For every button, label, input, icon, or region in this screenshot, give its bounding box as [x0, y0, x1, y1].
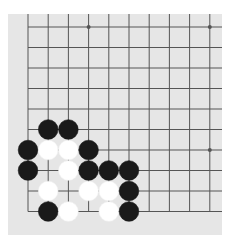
white-stone[interactable] — [59, 161, 79, 181]
black-stone[interactable] — [79, 140, 99, 160]
white-stone[interactable] — [99, 202, 119, 222]
star-point — [208, 148, 212, 152]
go-board[interactable] — [8, 14, 222, 235]
black-stone[interactable] — [59, 120, 79, 140]
white-stone[interactable] — [59, 202, 79, 222]
star-point — [208, 25, 212, 29]
white-stone[interactable] — [38, 140, 58, 160]
black-stone[interactable] — [119, 181, 139, 201]
black-stone[interactable] — [99, 161, 119, 181]
black-stone[interactable] — [119, 161, 139, 181]
white-stone[interactable] — [99, 181, 119, 201]
black-stone[interactable] — [38, 120, 58, 140]
white-stone[interactable] — [59, 140, 79, 160]
black-stone[interactable] — [79, 161, 99, 181]
black-stone[interactable] — [18, 140, 38, 160]
white-stone[interactable] — [38, 181, 58, 201]
white-stone[interactable] — [79, 181, 99, 201]
star-point — [87, 25, 91, 29]
board-grid — [8, 14, 222, 235]
black-stone[interactable] — [119, 202, 139, 222]
black-stone[interactable] — [18, 161, 38, 181]
black-stone[interactable] — [38, 202, 58, 222]
